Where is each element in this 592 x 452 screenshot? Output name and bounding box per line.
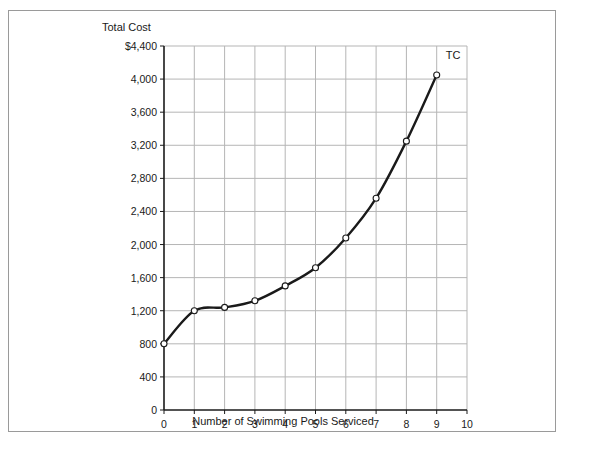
x-tick-label: 9 <box>434 418 440 430</box>
data-point-marker <box>313 265 319 271</box>
y-tick-label: 2,400 <box>131 205 157 217</box>
y-tick-label: 0 <box>151 404 157 416</box>
data-point-marker <box>222 304 228 310</box>
data-point-marker <box>373 195 379 201</box>
chart-plot: Total Cost Number of Swimming Pools Serv… <box>9 11 557 433</box>
y-tick-label: 800 <box>139 338 157 350</box>
x-tick-label: 4 <box>282 418 288 430</box>
data-point-marker <box>191 308 197 314</box>
x-tick-label: 0 <box>161 418 167 430</box>
y-tick-label: 3,200 <box>131 139 157 151</box>
chart-canvas <box>9 11 557 433</box>
y-tick-label: 1,600 <box>131 272 157 284</box>
x-tick-label: 8 <box>403 418 409 430</box>
y-tick-label: $4,400 <box>125 40 157 52</box>
x-tick-label: 3 <box>252 418 258 430</box>
axis-tick-marks <box>160 46 467 414</box>
x-tick-label: 6 <box>343 418 349 430</box>
data-point-marker <box>161 341 167 347</box>
x-tick-label: 1 <box>191 418 197 430</box>
data-point-markers <box>161 72 440 347</box>
x-tick-label: 10 <box>461 418 473 430</box>
x-tick-label: 5 <box>313 418 319 430</box>
data-point-marker <box>434 72 440 78</box>
y-tick-label: 2,800 <box>131 172 157 184</box>
data-point-marker <box>252 298 258 304</box>
y-tick-label: 400 <box>139 371 157 383</box>
total-cost-curve <box>164 75 437 344</box>
y-tick-label: 2,000 <box>131 239 157 251</box>
y-axis-title: Total Cost <box>102 21 151 33</box>
data-point-marker <box>282 283 288 289</box>
data-point-marker <box>343 235 349 241</box>
series-label-tc: TC <box>446 49 461 61</box>
y-tick-label: 1,200 <box>131 305 157 317</box>
figure-frame: Total Cost Number of Swimming Pools Serv… <box>8 10 556 432</box>
x-tick-label: 7 <box>373 418 379 430</box>
y-tick-label: 3,600 <box>131 106 157 118</box>
x-tick-label: 2 <box>222 418 228 430</box>
data-point-marker <box>403 138 409 144</box>
y-tick-label: 4,000 <box>131 73 157 85</box>
